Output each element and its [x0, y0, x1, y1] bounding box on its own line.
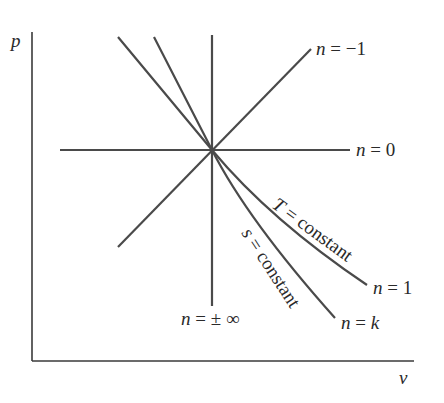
n-0-label: n = 0: [356, 139, 395, 160]
n-k-isentropic-curve: [154, 37, 335, 318]
n-1-label: n = 1: [373, 277, 412, 298]
p-axis-label: p: [9, 30, 21, 51]
polytropic-diagram: p v n = −1 n = 0 n = 1 n = k n = ± ∞ T =…: [0, 0, 444, 403]
v-axis-label: v: [399, 367, 408, 388]
n-k-label: n = k: [341, 312, 380, 333]
n-infinity-label: n = ± ∞: [181, 308, 239, 329]
isentropic-label: s = constant: [238, 224, 306, 312]
n-minus-1-label: n = −1: [316, 38, 366, 59]
